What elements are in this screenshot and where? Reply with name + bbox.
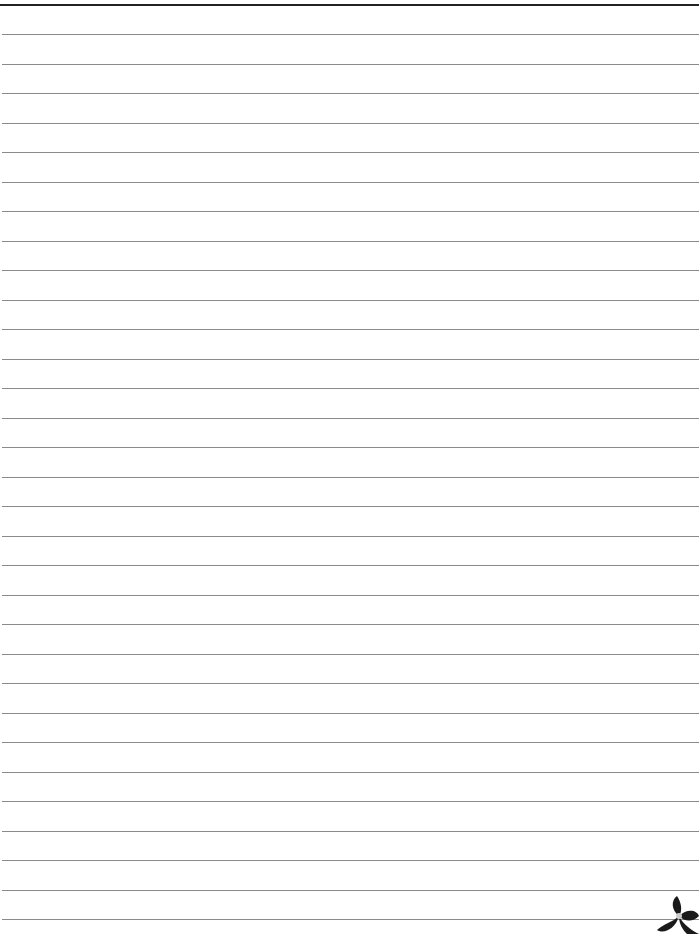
ruled-line	[2, 388, 699, 389]
ruled-line	[2, 683, 699, 684]
ruled-line	[2, 93, 699, 94]
lined-page	[0, 0, 699, 934]
ruled-line	[2, 801, 699, 802]
ruled-line	[2, 418, 699, 419]
ruled-line	[2, 654, 699, 655]
ruled-line	[2, 64, 699, 65]
ruled-line	[2, 359, 699, 360]
ruled-line	[2, 34, 699, 35]
ruled-line	[2, 477, 699, 478]
ruled-line	[2, 152, 699, 153]
ruled-line	[2, 831, 699, 832]
ruled-line	[2, 742, 699, 743]
ruled-line	[2, 182, 699, 183]
ruled-line	[2, 211, 699, 212]
ruled-line	[2, 536, 699, 537]
ruled-line	[2, 713, 699, 714]
ruled-line	[2, 123, 699, 124]
top-rule	[0, 4, 699, 6]
ruled-line	[2, 270, 699, 271]
ruled-line	[2, 624, 699, 625]
ruled-line	[2, 241, 699, 242]
flower-icon	[657, 894, 699, 934]
ruled-line	[2, 772, 699, 773]
ruled-line	[2, 595, 699, 596]
ruled-line	[2, 329, 699, 330]
ruled-line	[2, 860, 699, 861]
ruled-line	[2, 506, 699, 507]
ruled-line	[2, 300, 699, 301]
ruled-line	[2, 447, 699, 448]
ruled-line	[2, 565, 699, 566]
ruled-line	[2, 890, 699, 891]
ruled-line	[2, 919, 699, 920]
